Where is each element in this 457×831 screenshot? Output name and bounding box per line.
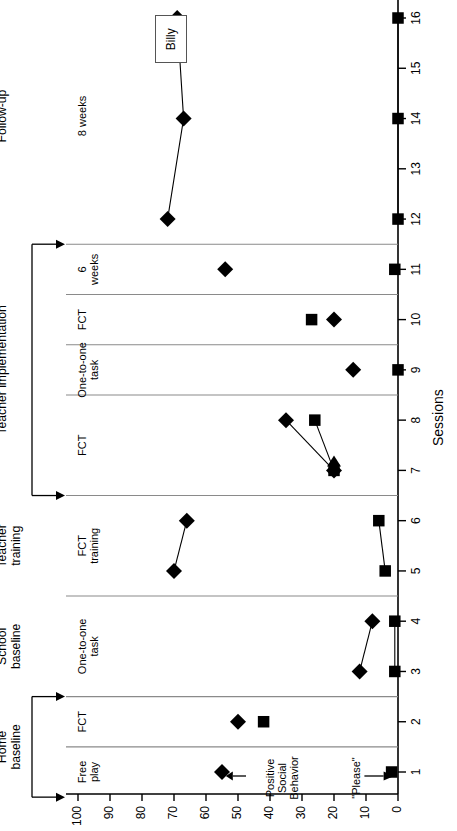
phase-title-teacher-implementation: Teacher implementation (0, 300, 10, 440)
data-point-psb-s14 (176, 111, 192, 127)
x-tick-label: 6 (410, 505, 422, 537)
condition-label-eight-weeks: 8 weeks (76, 70, 88, 162)
x-tick-label: 11 (410, 253, 422, 285)
annotation-positive-social-behavior: Positive Social Behavior (264, 726, 300, 830)
condition-label-fct-training: FCT training (76, 500, 100, 592)
x-tick-label: 15 (410, 52, 422, 84)
y-tick-label: 50 (231, 806, 243, 831)
data-point-please-s3 (389, 666, 401, 678)
series-line (379, 521, 385, 571)
data-point-psb-s10 (326, 312, 342, 328)
data-point-psb-s12 (160, 211, 176, 227)
y-tick-label: 80 (135, 806, 147, 831)
series-line (174, 521, 187, 571)
data-point-please-s12 (392, 213, 404, 225)
data-point-please-s6 (373, 515, 385, 527)
data-point-please-s4 (389, 615, 401, 627)
data-point-please-s11 (389, 264, 401, 276)
x-tick-label: 9 (410, 354, 422, 386)
data-point-psb-s3 (352, 663, 368, 679)
y-tick-label: 0 (391, 806, 403, 831)
x-tick-label: 8 (410, 404, 422, 436)
x-tick-label: 13 (410, 153, 422, 185)
x-tick-label: 7 (410, 454, 422, 486)
x-tick-label: 12 (410, 203, 422, 235)
x-tick-label: 16 (410, 2, 422, 34)
data-point-psb-s4 (364, 613, 380, 629)
data-point-please-s14 (392, 113, 404, 125)
data-point-psb-s11 (217, 261, 233, 277)
x-axis-title: Sessions (430, 389, 446, 446)
data-point-please-s10 (306, 314, 318, 326)
x-tick-label: 1 (410, 756, 422, 788)
bracket-arrow (56, 692, 65, 701)
figure-stage: 0102030405060708090100123456789101112131… (0, 0, 457, 831)
data-point-please-s16 (392, 12, 404, 24)
bracket-arrow (56, 240, 65, 249)
x-tick-label: 5 (410, 555, 422, 587)
phase-bracket-teacher-implementation (32, 240, 65, 500)
x-tick-label: 4 (410, 605, 422, 637)
annotation-please: "Please" (350, 738, 362, 818)
series-line (360, 621, 373, 671)
bracket-arrow (56, 793, 65, 802)
phase-title-follow-up: Follow-up (0, 46, 10, 186)
plot-area: 0102030405060708090100123456789101112131… (0, 0, 457, 831)
data-point-please-s5 (379, 565, 391, 577)
y-tick-label: 90 (103, 806, 115, 831)
condition-label-six-weeks: 6 weeks (76, 223, 100, 315)
y-tick-label: 60 (199, 806, 211, 831)
x-tick-label: 2 (410, 706, 422, 738)
x-tick-label: 3 (410, 655, 422, 687)
condition-label-one-to-one-a: One-to-one task (76, 600, 100, 692)
x-tick-label: 14 (410, 103, 422, 135)
phase-title-teacher-training: Teacher training (0, 476, 23, 616)
phase-bracket-home-baseline (32, 692, 65, 802)
y-tick-label: 70 (167, 806, 179, 831)
series-line (286, 420, 334, 470)
legend-box: Billy (155, 15, 187, 63)
data-point-psb-s6 (179, 513, 195, 529)
data-point-please-s8 (309, 414, 321, 426)
bracket-arrow (56, 491, 65, 500)
data-point-psb-s9 (345, 362, 361, 378)
data-point-psb-s1 (214, 764, 230, 780)
data-point-psb-s5 (166, 563, 182, 579)
chart-canvas (0, 0, 457, 831)
data-point-psb-s2 (230, 714, 246, 730)
x-tick-label: 10 (410, 304, 422, 336)
data-point-please-s9 (392, 364, 404, 376)
y-tick-label: 20 (327, 806, 339, 831)
rotated-figure: 0102030405060708090100123456789101112131… (0, 0, 457, 831)
